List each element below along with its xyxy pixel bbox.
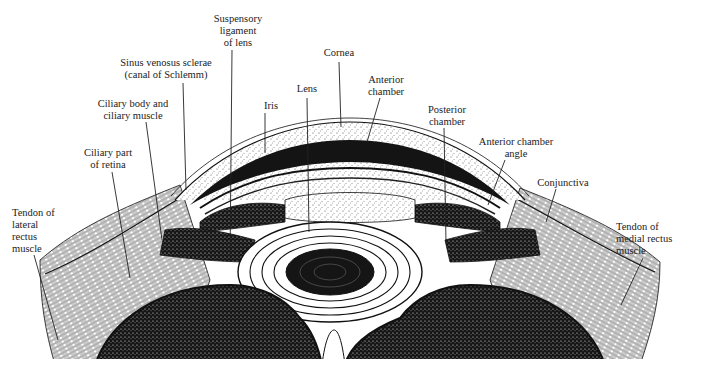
eye-anatomy-diagram: Suspensory ligament of lensCorneaSinus v…: [0, 0, 703, 373]
label-conjunctiva: Conjunctiva: [530, 177, 596, 189]
label-sinus-venosus: Sinus venosus sclerae (canal of Schlemm): [108, 57, 224, 81]
label-anterior-chamber: Anterior chamber: [361, 74, 411, 98]
leader-sinus-venosus: [183, 83, 186, 190]
label-cornea: Cornea: [316, 47, 362, 59]
label-ciliary-retina: Ciliary part of retina: [76, 147, 140, 171]
label-iris: Iris: [256, 100, 286, 112]
label-tendon-medial: Tendon of medial rectus muscle: [616, 221, 696, 257]
ciliary-body-right: [445, 228, 540, 262]
pupil-area: [285, 193, 415, 223]
label-suspensory-ligament: Suspensory ligament of lens: [208, 13, 268, 49]
label-anterior-chamber-angle: Anterior chamber angle: [468, 136, 564, 160]
label-lens: Lens: [291, 83, 323, 95]
label-ciliary-body: Ciliary body and ciliary muscle: [90, 98, 176, 122]
iris-right: [415, 203, 500, 232]
leader-cornea: [339, 62, 341, 127]
label-tendon-lateral: Tendon of lateral rectus muscle: [12, 207, 72, 255]
iris-left: [200, 203, 285, 232]
label-posterior-chamber: Posterior chamber: [420, 104, 474, 128]
ciliary-body-left: [160, 228, 255, 262]
